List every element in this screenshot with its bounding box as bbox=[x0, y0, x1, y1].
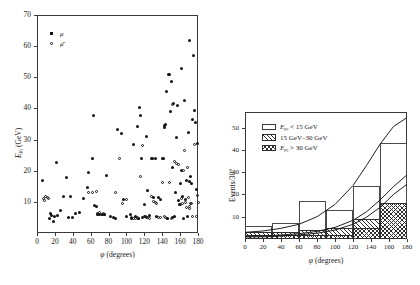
scatter-point-antimu bbox=[168, 181, 171, 184]
scatter-x-tick-label: 100 bbox=[121, 238, 132, 245]
scatter-point-antimu bbox=[118, 157, 121, 160]
legend-swatch-open-icon bbox=[262, 124, 276, 131]
histogram-x-tick bbox=[263, 239, 264, 242]
scatter-point-mu bbox=[154, 157, 157, 160]
scatter-point-antimu bbox=[195, 215, 198, 218]
scatter-x-tick-label: 180 bbox=[192, 238, 203, 245]
scatter-point-mu bbox=[169, 110, 172, 113]
histogram-x-tick bbox=[371, 239, 372, 242]
histogram-x-tick bbox=[353, 239, 354, 242]
y-title-sub-mu: μ bbox=[17, 151, 23, 154]
scatter-point-antimu bbox=[141, 144, 144, 147]
scatter-point-mu bbox=[52, 220, 55, 223]
scatter-x-tick bbox=[126, 233, 127, 236]
scatter-point-mu bbox=[187, 131, 190, 134]
right-x-title-units: (degrees) bbox=[315, 256, 343, 265]
scatter-point-mu bbox=[164, 123, 167, 126]
scatter-point-mu bbox=[159, 198, 162, 201]
scatter-point-mu bbox=[168, 73, 171, 76]
histogram-x-tick bbox=[245, 239, 246, 242]
x-title-units: (degrees) bbox=[106, 250, 134, 259]
scatter-point-antimu bbox=[125, 198, 128, 201]
scatter-x-tick bbox=[37, 233, 38, 236]
scatter-point-mu bbox=[95, 205, 98, 208]
scatter-y-tick-label: 10 bbox=[24, 198, 31, 205]
scatter-y-tick bbox=[34, 15, 37, 16]
scatter-y-tick bbox=[34, 46, 37, 47]
scatter-point-antimu bbox=[161, 181, 164, 184]
scatter-x-tick bbox=[198, 233, 199, 236]
physics-figure: 02040608010012014016018010203040506070 μ… bbox=[0, 0, 420, 285]
fit-curve-middle-fit bbox=[245, 175, 407, 236]
scatter-point-antimu bbox=[191, 215, 194, 218]
histogram-x-tick-label: 140 bbox=[366, 244, 377, 251]
scatter-x-tick bbox=[109, 233, 110, 236]
legend-swatch-hatch-cross-icon bbox=[262, 145, 276, 152]
histogram-x-tick-label: 40 bbox=[278, 244, 285, 251]
scatter-y-axis-title: Eμ2 (GeV) bbox=[14, 128, 24, 158]
scatter-point-mu bbox=[188, 39, 191, 42]
histogram-x-tick-label: 160 bbox=[384, 244, 395, 251]
histogram-x-tick-label: 180 bbox=[402, 244, 413, 251]
scatter-x-tick-label: 20 bbox=[51, 238, 58, 245]
histogram-fit-curves bbox=[245, 112, 407, 239]
scatter-x-tick bbox=[162, 233, 163, 236]
scatter-y-tick-label: 70 bbox=[24, 11, 31, 18]
histogram-y-axis-title: Events/30° bbox=[228, 168, 237, 201]
scatter-point-antimu bbox=[159, 216, 162, 219]
scatter-point-mu bbox=[183, 99, 186, 102]
scatter-point-antimu bbox=[187, 196, 190, 199]
scatter-x-tick-label: 60 bbox=[87, 238, 94, 245]
scatter-x-tick bbox=[73, 233, 74, 236]
scatter-point-antimu bbox=[166, 217, 169, 220]
scatter-y-tick bbox=[34, 140, 37, 141]
histogram-x-tick bbox=[389, 239, 390, 242]
scatter-y-tick bbox=[34, 77, 37, 78]
scatter-point-mu bbox=[50, 214, 53, 217]
scatter-y-tick-label: 20 bbox=[24, 167, 31, 174]
scatter-point-antimu bbox=[197, 201, 200, 204]
scatter-point-mu bbox=[180, 67, 183, 70]
filled-square-icon bbox=[50, 32, 53, 35]
histogram-x-tick-label: 120 bbox=[348, 244, 359, 251]
scatter-point-antimu bbox=[43, 199, 46, 202]
y-title-E: E bbox=[14, 153, 23, 158]
scatter-point-mu bbox=[185, 179, 188, 182]
scatter-x-tick bbox=[180, 233, 181, 236]
scatter-point-mu bbox=[125, 215, 128, 218]
histogram-y-tick-label: 10 bbox=[232, 213, 239, 220]
histogram-x-tick bbox=[299, 239, 300, 242]
scatter-y-tick bbox=[34, 171, 37, 172]
histogram-x-tick bbox=[407, 239, 408, 242]
scatter-y-tick-label: 30 bbox=[24, 136, 31, 143]
scatter-point-mu bbox=[136, 125, 139, 128]
scatter-point-antimu bbox=[184, 201, 187, 204]
scatter-point-mu bbox=[176, 104, 179, 107]
scatter-x-tick-label: 0 bbox=[35, 238, 39, 245]
scatter-x-tick bbox=[55, 233, 56, 236]
scatter-point-mu bbox=[74, 212, 77, 215]
scatter-x-tick-label: 160 bbox=[175, 238, 186, 245]
scatter-point-antimu bbox=[170, 217, 173, 220]
scatter-x-tick bbox=[144, 233, 145, 236]
scatter-point-mu bbox=[193, 109, 196, 112]
histogram-x-tick bbox=[281, 239, 282, 242]
scatter-point-antimu bbox=[186, 166, 189, 169]
scatter-x-tick-label: 80 bbox=[105, 238, 112, 245]
scatter-y-tick-label: 50 bbox=[24, 74, 31, 81]
scatter-x-tick-label: 120 bbox=[139, 238, 150, 245]
scatter-point-mu bbox=[120, 132, 123, 135]
scatter-point-mu bbox=[162, 157, 165, 160]
y-title-units: (GeV) bbox=[14, 128, 23, 147]
scatter-point-mu bbox=[192, 54, 195, 57]
scatter-y-tick bbox=[34, 202, 37, 203]
scatter-x-tick bbox=[91, 233, 92, 236]
scatter-y-tick-label: 60 bbox=[24, 42, 31, 49]
histogram-x-tick-label: 60 bbox=[296, 244, 303, 251]
legend-swatch-hatch-single-icon bbox=[262, 134, 276, 141]
scatter-point-mu bbox=[41, 179, 44, 182]
scatter-x-axis-title: φ (degrees) bbox=[100, 251, 134, 259]
histogram-legend-label: 15 GeV–30 GeV bbox=[280, 133, 327, 144]
scatter-point-mu bbox=[145, 135, 148, 138]
scatter-point-mu bbox=[59, 209, 62, 212]
